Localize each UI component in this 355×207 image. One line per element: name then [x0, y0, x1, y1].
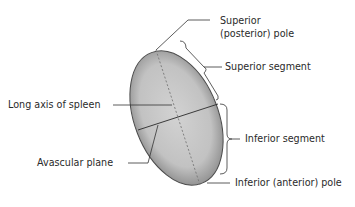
superior-pole-label-line2: (posterior) pole — [220, 28, 294, 39]
spleen-diagram: Superior (posterior) pole Superior segme… — [0, 0, 355, 207]
inferior-pole-label: Inferior (anterior) pole — [235, 177, 342, 188]
inferior-segment-label: Inferior segment — [245, 133, 325, 144]
long-axis-label: Long axis of spleen — [8, 99, 100, 110]
avascular-plane-label: Avascular plane — [37, 157, 113, 168]
superior-segment-label: Superior segment — [225, 61, 311, 72]
superior-pole-leader — [156, 20, 210, 50]
superior-pole-label-line1: Superior — [220, 15, 261, 26]
